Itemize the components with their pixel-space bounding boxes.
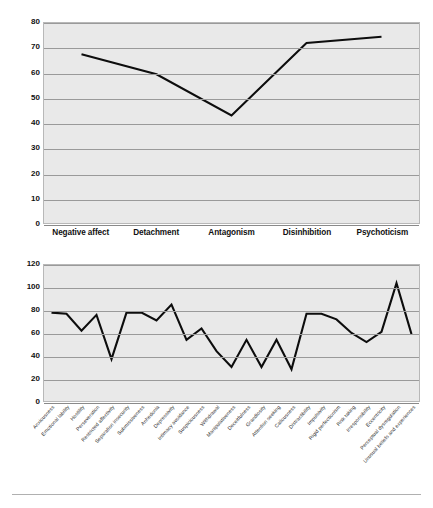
gridline: [44, 334, 419, 335]
gridline: [44, 380, 419, 381]
y-axis-tick-label: 80: [0, 18, 40, 26]
chart-page: 80706050403020100 Negative affectDetachm…: [0, 0, 433, 508]
gridline: [44, 74, 419, 75]
gridline: [44, 225, 419, 226]
plot-area-bottom: [43, 264, 420, 402]
y-axis-tick-label: 20: [0, 375, 40, 383]
gridline: [44, 357, 419, 358]
y-axis-tick-label: 60: [0, 329, 40, 337]
x-axis-tick-label: Psychoticism: [345, 228, 420, 244]
y-axis-tick-label: 60: [0, 69, 40, 77]
gridline: [44, 99, 419, 100]
x-axis-labels-top: Negative affectDetachmentAntagonismDisin…: [43, 228, 420, 244]
gridline: [44, 48, 419, 49]
y-axis-tick-label: 30: [0, 144, 40, 152]
y-axis-tick-label: 40: [0, 352, 40, 360]
gridline: [44, 175, 419, 176]
personality-facets-chart: 120100806040200 AnxiousnessEmotional lab…: [0, 254, 433, 484]
y-axis-tick-label: 70: [0, 43, 40, 51]
y-axis-tick-label: 40: [0, 119, 40, 127]
series-line-domains: [44, 23, 419, 223]
y-axis-tick-label: 100: [0, 283, 40, 291]
gridline: [44, 311, 419, 312]
y-axis-ticks-bottom: 120100806040200: [0, 254, 40, 484]
y-axis-tick-label: 10: [0, 195, 40, 203]
gridline: [44, 200, 419, 201]
x-axis-labels-bottom: AnxiousnessEmotional labilityHostilityPe…: [43, 402, 420, 480]
x-axis-tick-label: Negative affect: [43, 228, 118, 244]
gridline: [44, 288, 419, 289]
x-axis-tick-label: Antagonism: [194, 228, 269, 244]
gridline: [44, 265, 419, 266]
x-axis-tick-label: Detachment: [118, 228, 193, 244]
x-axis-tick-label: Disinhibition: [269, 228, 344, 244]
personality-domains-chart: 80706050403020100 Negative affectDetachm…: [0, 0, 433, 252]
y-axis-ticks-top: 80706050403020100: [0, 0, 40, 252]
footer-divider: [12, 494, 421, 495]
y-axis-tick-label: 80: [0, 306, 40, 314]
y-axis-tick-label: 0: [0, 220, 40, 228]
plot-area-top: [43, 22, 420, 224]
y-axis-tick-label: 0: [0, 398, 40, 406]
gridline: [44, 23, 419, 24]
y-axis-tick-label: 120: [0, 260, 40, 268]
gridline: [44, 124, 419, 125]
gridline: [44, 149, 419, 150]
y-axis-tick-label: 50: [0, 94, 40, 102]
y-axis-tick-label: 20: [0, 170, 40, 178]
